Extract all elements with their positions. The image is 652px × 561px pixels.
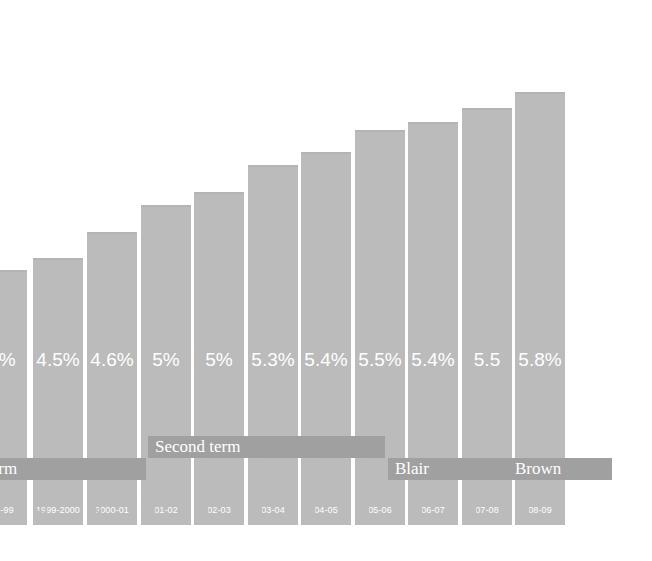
bar-percent-label: 5% — [0, 350, 27, 369]
chart-canvas: 5%98-99£49.7bn4.5%1999-2000£51.3bn4.6%20… — [0, 0, 652, 561]
bar-value-label: £67.6bn — [246, 451, 265, 525]
bar-percent-label: 5.3% — [248, 350, 298, 369]
bar-percent-label: 5.5 — [462, 350, 512, 369]
bar-percent-label: 5.8% — [515, 350, 565, 369]
bar-percent-label: 5% — [194, 350, 244, 369]
bar-percent-label: 5.5% — [355, 350, 405, 369]
bar-percent-label: 5.4% — [408, 350, 458, 369]
term-band: t term — [0, 458, 146, 480]
bar-value-label: £70.2bn — [299, 451, 318, 525]
bar-value-label: £62.3bn — [192, 451, 211, 525]
bar-value-label: £73.6bn — [353, 451, 372, 525]
bar-percent-label: 5.4% — [301, 350, 351, 369]
bar-year-label: 98-99 — [0, 506, 27, 515]
term-band: Blair — [388, 458, 508, 480]
bar-rect[interactable]: 5%98-99 — [0, 270, 27, 525]
bar-percent-label: 4.6% — [87, 350, 137, 369]
bar-percent-label: 4.5% — [33, 350, 83, 369]
term-band: Second term — [148, 436, 385, 458]
term-band: Brown — [508, 458, 612, 480]
bar-percent-label: 5% — [141, 350, 191, 369]
